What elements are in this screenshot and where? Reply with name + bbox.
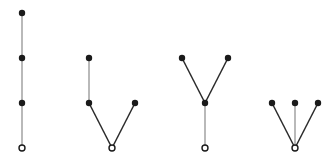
root-node <box>292 145 298 151</box>
tree-node <box>292 100 298 106</box>
tree-node <box>19 100 25 106</box>
tree-edge <box>112 103 135 148</box>
tree-edge <box>205 58 228 103</box>
star-tree <box>269 100 321 151</box>
tree-node <box>86 55 92 61</box>
tree-node <box>19 55 25 61</box>
root-node <box>19 145 25 151</box>
y-tree <box>179 55 231 151</box>
path-tree <box>19 10 25 151</box>
tree-edge <box>89 103 112 148</box>
tree-edge <box>272 103 295 148</box>
tree-node <box>179 55 185 61</box>
tree-diagram <box>0 0 333 161</box>
root-node <box>202 145 208 151</box>
tree-node <box>315 100 321 106</box>
tree-node <box>132 100 138 106</box>
tree-node <box>269 100 275 106</box>
tree-node <box>19 10 25 16</box>
branch-left-tree <box>86 55 138 151</box>
tree-node <box>86 100 92 106</box>
root-node <box>109 145 115 151</box>
tree-edge <box>182 58 205 103</box>
tree-node <box>202 100 208 106</box>
tree-node <box>225 55 231 61</box>
tree-edge <box>295 103 318 148</box>
